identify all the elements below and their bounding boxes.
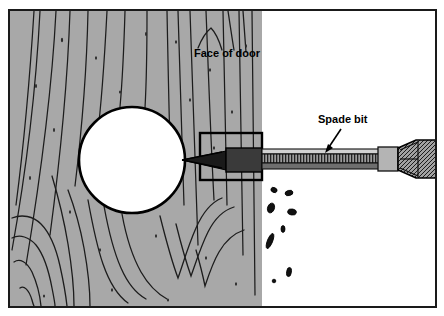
spade-bit-shaft <box>262 147 398 171</box>
drilled-hole-circle <box>79 107 185 213</box>
shaft-shadow-band <box>262 163 397 169</box>
figure-root: Face of door Spade bit <box>0 0 444 316</box>
spade-bit-paddle <box>226 148 262 172</box>
wood-chip <box>281 226 285 233</box>
label-spade-bit: Spade bit <box>318 113 368 125</box>
wood-chip <box>272 279 276 283</box>
shaft-hatched-band <box>262 154 397 163</box>
drilled-hole <box>79 107 185 213</box>
label-face-of-door: Face of door <box>194 47 261 59</box>
spade-bit-diagram: Face of door Spade bit <box>0 0 444 316</box>
drill-chuck <box>398 140 436 178</box>
shaft-collar <box>378 147 398 171</box>
